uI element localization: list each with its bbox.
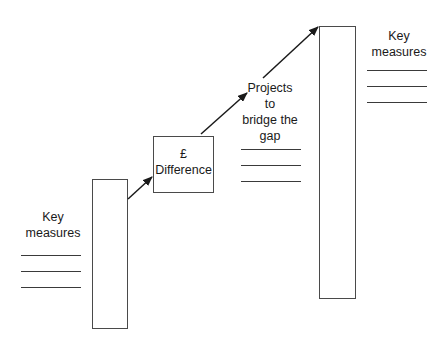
arrow-to-projects-icon xyxy=(201,93,247,134)
arrows-layer xyxy=(0,0,445,345)
arrow-to-difference-icon xyxy=(128,177,152,199)
gap-analysis-diagram: Key measures £ Difference Projects to br… xyxy=(0,0,445,345)
arrow-to-target-icon xyxy=(263,27,318,78)
